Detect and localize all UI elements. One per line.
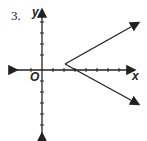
upper-ray <box>65 23 138 64</box>
y-axis-label: y <box>31 5 40 19</box>
coordinate-graph: x y O <box>0 0 147 141</box>
origin-label: O <box>30 70 40 84</box>
x-axis-label: x <box>131 69 140 83</box>
